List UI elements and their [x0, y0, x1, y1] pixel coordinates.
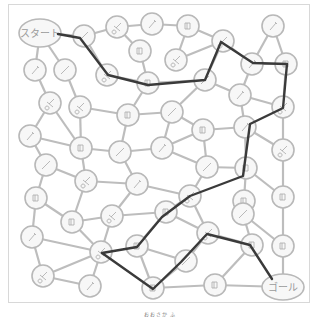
node-circle [61, 211, 83, 233]
maze-node[interactable] [196, 156, 218, 178]
maze-node[interactable] [109, 141, 131, 163]
maze-node[interactable] [177, 15, 199, 37]
maze-node[interactable] [25, 187, 47, 209]
node-circle [272, 186, 294, 208]
maze-node[interactable] [272, 235, 294, 257]
start-node[interactable]: スタート [19, 19, 61, 47]
maze-node[interactable] [101, 205, 123, 227]
maze-node[interactable] [117, 104, 139, 126]
maze-node[interactable] [75, 170, 97, 192]
maze-node[interactable] [204, 274, 226, 296]
maze-node[interactable] [61, 211, 83, 233]
maze-node[interactable] [165, 49, 187, 71]
node-circle [177, 15, 199, 37]
node-circle [25, 187, 47, 209]
maze-node[interactable] [241, 234, 263, 256]
maze-node[interactable] [262, 15, 284, 37]
caption: おおさか ふ [0, 310, 320, 317]
maze-node[interactable] [272, 139, 294, 161]
node-circle [117, 104, 139, 126]
maze-node[interactable] [126, 173, 148, 195]
node-circle [129, 40, 151, 62]
start-label: スタート [20, 28, 60, 39]
maze-node[interactable] [151, 137, 173, 159]
node-circle [241, 234, 263, 256]
maze-node[interactable] [39, 92, 61, 114]
maze-node[interactable] [141, 13, 163, 35]
maze-node[interactable] [175, 250, 197, 272]
node-circle [192, 119, 214, 141]
maze-node[interactable] [32, 265, 54, 287]
maze-graph: スタート ゴール [0, 0, 320, 321]
maze-node[interactable] [19, 125, 41, 147]
node-circle [204, 274, 226, 296]
maze-node[interactable] [232, 203, 254, 225]
goal-node[interactable]: ゴール [262, 274, 304, 300]
maze-node[interactable] [161, 101, 183, 123]
maze-node[interactable] [21, 226, 43, 248]
maze-node[interactable] [24, 59, 46, 81]
maze-node[interactable] [234, 116, 256, 138]
maze-node[interactable] [192, 119, 214, 141]
node-circle [272, 235, 294, 257]
goal-label: ゴール [268, 281, 298, 293]
node-layer [19, 13, 297, 299]
maze-node[interactable] [35, 154, 57, 176]
maze-node[interactable] [106, 16, 128, 38]
maze-node[interactable] [69, 96, 91, 118]
maze-node[interactable] [54, 59, 76, 81]
maze-node[interactable] [229, 84, 251, 106]
maze-node[interactable] [129, 40, 151, 62]
maze-node[interactable] [79, 275, 101, 297]
node-circle [70, 137, 92, 159]
maze-node[interactable] [70, 137, 92, 159]
maze-node[interactable] [272, 186, 294, 208]
